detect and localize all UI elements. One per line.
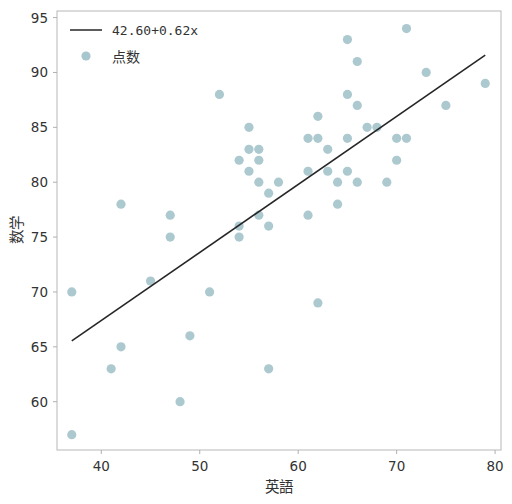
legend-label-regression: 42.60+0.62x: [112, 23, 198, 38]
x-tick-label: 70: [388, 458, 405, 474]
scatter-point: [264, 364, 273, 373]
scatter-point: [441, 101, 450, 110]
scatter-point: [244, 145, 253, 154]
scatter-point: [422, 68, 431, 77]
scatter-point: [235, 156, 244, 165]
scatter-point: [333, 200, 342, 209]
scatter-point: [323, 145, 332, 154]
scatter-point: [264, 189, 273, 198]
scatter-point: [392, 156, 401, 165]
scatter-point: [353, 178, 362, 187]
scatter-point: [235, 232, 244, 241]
scatter-point: [166, 211, 175, 220]
scatter-point: [303, 211, 312, 220]
scatter-point: [254, 145, 263, 154]
scatter-point: [116, 342, 125, 351]
scatter-point: [116, 200, 125, 209]
x-axis-ticks: 4050607080: [93, 450, 504, 474]
scatter-point: [363, 123, 372, 132]
plot-area-background: [57, 11, 501, 450]
scatter-point: [254, 156, 263, 165]
scatter-point: [402, 134, 411, 143]
scatter-point: [343, 167, 352, 176]
scatter-point: [353, 101, 362, 110]
scatter-point: [205, 287, 214, 296]
scatter-point: [215, 90, 224, 99]
scatter-point: [382, 178, 391, 187]
scatter-point: [274, 178, 283, 187]
scatter-point: [343, 134, 352, 143]
scatter-point: [264, 222, 273, 231]
scatter-point: [107, 364, 116, 373]
x-axis-label: 英語: [265, 478, 293, 495]
x-tick-label: 40: [93, 458, 110, 474]
scatter-point: [402, 24, 411, 33]
y-tick-label: 70: [31, 284, 48, 300]
scatter-point: [185, 331, 194, 340]
y-tick-label: 80: [31, 174, 48, 190]
scatter-point: [67, 287, 76, 296]
scatter-point: [343, 35, 352, 44]
y-tick-label: 65: [31, 339, 48, 355]
scatter-point: [244, 123, 253, 132]
scatter-point: [254, 178, 263, 187]
scatter-point: [392, 134, 401, 143]
scatter-point: [313, 298, 322, 307]
y-tick-label: 75: [31, 229, 48, 245]
scatter-point: [313, 134, 322, 143]
scatter-point: [313, 112, 322, 121]
y-tick-label: 95: [31, 10, 48, 26]
plot-canvas: 6065707580859095 4050607080 数学 英語 42.60+…: [0, 0, 512, 504]
y-axis-ticks: 6065707580859095: [31, 10, 57, 410]
axes-spines: [57, 11, 501, 450]
x-tick-label: 50: [191, 458, 208, 474]
x-tick-label: 60: [290, 458, 307, 474]
scatter-plot-figure: 6065707580859095 4050607080 数学 英語 42.60+…: [0, 0, 512, 504]
y-tick-label: 60: [31, 394, 48, 410]
scatter-point: [481, 79, 490, 88]
y-tick-label: 85: [31, 119, 48, 135]
scatter-point: [303, 134, 312, 143]
scatter-point: [166, 232, 175, 241]
y-axis-label: 数学: [9, 216, 25, 244]
scatter-point: [244, 167, 253, 176]
legend-marker-swatch: [81, 51, 90, 60]
scatter-point: [343, 90, 352, 99]
scatter-point: [333, 178, 342, 187]
x-tick-label: 80: [486, 458, 503, 474]
scatter-point: [175, 397, 184, 406]
legend-label-points: 点数: [112, 49, 140, 65]
scatter-point: [323, 167, 332, 176]
scatter-point: [353, 57, 362, 66]
y-tick-label: 90: [31, 64, 48, 80]
scatter-point: [67, 430, 76, 439]
